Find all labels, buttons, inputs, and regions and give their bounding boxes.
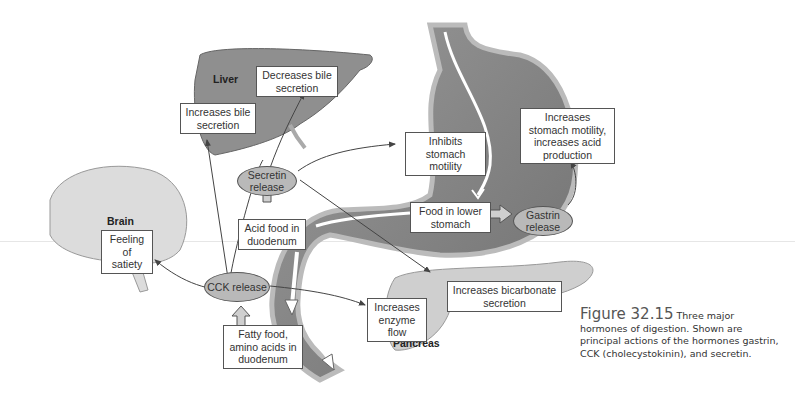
enzyme-flow-box: Increases enzyme flow xyxy=(367,298,427,342)
inhibits-stomach-box: Inhibits stomach motility xyxy=(405,132,486,176)
increases-bile-box: Increases bile secretion xyxy=(180,103,256,134)
acid-food-box: Acid food in duodenum xyxy=(238,219,306,250)
satiety-box: Feeling of satiety xyxy=(101,230,153,274)
secretin-oval: Secretin release xyxy=(237,166,297,196)
liver-shape xyxy=(194,49,372,155)
liver-label: Liver xyxy=(213,73,238,85)
brain-label: Brain xyxy=(107,215,134,227)
digestive-hormones-diagram: Liver Brain Pancreas Decreases bile secr… xyxy=(0,0,795,398)
increases-stomach-box: Increases stomach motility, increases ac… xyxy=(520,108,615,164)
cck-oval: CCK release xyxy=(204,272,270,302)
food-lower-stomach-box: Food in lower stomach xyxy=(410,202,491,233)
gastrin-oval: Gastrin release xyxy=(513,206,573,236)
bicarbonate-box: Increases bicarbonate secretion xyxy=(447,281,562,312)
fatty-food-box: Fatty food, amino acids in duodenum xyxy=(223,325,303,369)
figure-caption: Figure 32.15 Three major hormones of dig… xyxy=(580,308,780,360)
figure-number: Figure 32.15 xyxy=(580,305,674,323)
decreases-bile-box: Decreases bile secretion xyxy=(256,66,338,97)
